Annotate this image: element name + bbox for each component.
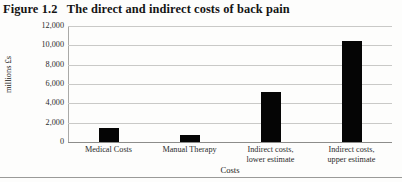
x-axis-tick-labels: Medical CostsManual TherapyIndirect cost… (68, 145, 392, 167)
plot-area (68, 26, 392, 142)
y-axis-tick-label: 4,000 (18, 99, 64, 107)
figure-container: Figure 1.2 The direct and indirect costs… (0, 0, 402, 182)
y-axis-tick-label: 6,000 (18, 80, 64, 88)
chart-canvas: millions £s 02,0004,0006,0008,00010,0001… (0, 18, 402, 170)
bar (342, 41, 362, 143)
gridline (68, 26, 392, 27)
bar (99, 128, 119, 142)
y-axis-tick-label: 8,000 (18, 61, 64, 69)
bar (180, 135, 200, 142)
y-axis-title: millions £s (4, 45, 13, 105)
x-axis-tick-label: Indirect costs, lower estimate (230, 145, 311, 164)
x-axis-title: Costs (68, 165, 392, 175)
y-axis-tick-label: 2,000 (18, 119, 64, 127)
figure-title: Figure 1.2 The direct and indirect costs… (3, 1, 399, 17)
y-axis-tick-label: 0 (18, 138, 64, 146)
bottom-rule (0, 177, 402, 178)
x-axis-tick-label: Manual Therapy (149, 145, 230, 155)
y-axis-tick-labels: 02,0004,0006,0008,00010,00012,000 (16, 26, 64, 142)
gridline (68, 142, 392, 143)
y-axis-tick-label: 10,000 (18, 41, 64, 49)
x-axis-tick-label: Medical Costs (68, 145, 149, 155)
y-axis-tick-label: 12,000 (18, 22, 64, 30)
bar (261, 92, 281, 142)
x-axis-tick-label: Indirect costs, upper estimate (311, 145, 392, 164)
